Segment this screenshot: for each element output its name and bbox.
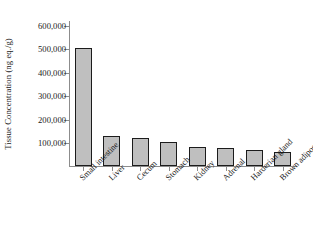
- y-axis-title-container: Tissue Concentration (ng eq./g): [0, 18, 16, 170]
- y-axis-title: Tissue Concentration (ng eq./g): [3, 38, 13, 150]
- y-tick-label: 100,000: [38, 138, 66, 148]
- plot-area: 100,000200,000300,000400,000500,000600,0…: [69, 21, 297, 167]
- bar: [75, 48, 92, 166]
- bar-chart-figure: Tissue Concentration (ng eq./g) 100,0002…: [0, 0, 313, 242]
- y-tick-label: 600,000: [38, 21, 66, 31]
- y-axis-line: [69, 21, 70, 167]
- y-tick-label: 300,000: [38, 91, 66, 101]
- y-tick-label: 500,000: [38, 44, 66, 54]
- y-tick-label: 400,000: [38, 68, 66, 78]
- y-tick-label: 200,000: [38, 115, 66, 125]
